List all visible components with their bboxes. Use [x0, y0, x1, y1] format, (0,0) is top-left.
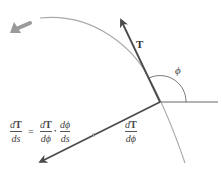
diagram-canvas	[0, 0, 222, 178]
derivative-vector	[40, 102, 160, 162]
fraction-bar	[125, 131, 137, 132]
tangent-label: T	[136, 39, 143, 50]
fraction-bar	[10, 131, 22, 132]
term2-den: ds	[61, 133, 70, 144]
angle-label: ϕ	[175, 65, 181, 76]
direction-arrow-icon	[10, 22, 30, 33]
derivative-vector-label: dT dϕ	[125, 119, 137, 144]
tangent-vector	[121, 20, 160, 102]
fraction-bar	[40, 131, 52, 132]
den: dϕ	[126, 133, 136, 144]
fraction-bar	[60, 131, 70, 132]
lhs-num-T: T	[15, 119, 22, 130]
formula-lhs: dT ds	[10, 119, 22, 144]
num-T: T	[130, 119, 137, 130]
formula-term1: dT dϕ	[40, 119, 52, 144]
lhs-den: ds	[11, 133, 20, 144]
formula-term2: dϕ ds	[60, 119, 70, 144]
formula-dot: •	[54, 127, 56, 135]
formula-equals: =	[28, 126, 34, 137]
term2-num: dϕ	[60, 119, 70, 130]
term1-num-T: T	[45, 119, 52, 130]
term1-den: dϕ	[41, 133, 51, 144]
